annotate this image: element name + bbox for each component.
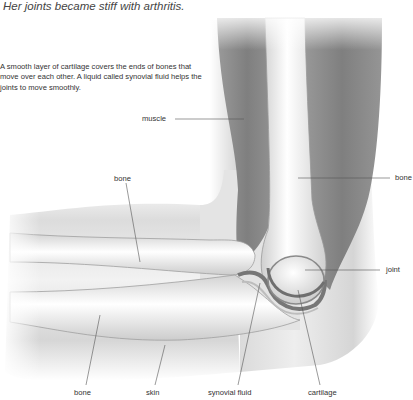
label-skin: skin [146, 388, 160, 397]
label-bone-forearm: bone [114, 174, 131, 183]
label-joint: joint [386, 265, 400, 274]
label-synovial-fluid: synovial fluid [208, 388, 251, 397]
elbow-joint-illustration [0, 0, 413, 400]
label-muscle: muscle [142, 114, 166, 123]
label-bone-bottom: bone [74, 388, 91, 397]
label-bone-humerus: bone [395, 173, 412, 182]
label-cartilage: cartilage [308, 388, 337, 397]
